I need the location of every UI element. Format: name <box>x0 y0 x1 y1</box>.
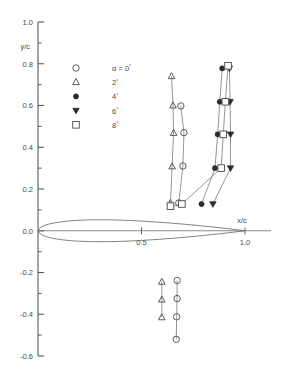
x-axis-title: x/c <box>237 216 247 225</box>
legend-symbol-open-triangle-up <box>73 79 80 85</box>
series-undefined <box>173 103 187 343</box>
legend-item-4: 4° <box>73 92 118 102</box>
legend-item-8: 8° <box>73 120 119 130</box>
data-point <box>199 201 204 206</box>
legend-label: 4° <box>112 92 118 102</box>
legend-label: 6° <box>112 106 118 116</box>
x-axis-tick-label: 1.0 <box>240 238 250 247</box>
legend: α = 0°2°4°6°8° <box>73 63 131 129</box>
legend-label: 8° <box>112 120 118 130</box>
y-axis-tick-label: 0.6 <box>23 101 33 110</box>
data-point <box>220 131 227 138</box>
y-axis-tick-label: 1.0 <box>23 18 33 27</box>
data-point <box>179 201 186 208</box>
y-axis-tick-label: 0.0 <box>23 227 33 236</box>
legend-symbol-open-circle <box>73 65 79 71</box>
data-point <box>225 63 232 70</box>
legend-item-0: α = 0° <box>73 63 131 73</box>
series-undefined <box>158 73 176 320</box>
data-series-group <box>158 63 233 343</box>
axis-titles: y/cx/c <box>20 42 247 225</box>
legend-label: α = 0° <box>112 63 131 73</box>
series-connector <box>170 76 173 203</box>
wake-survey-figure: 1.00.80.60.40.20.0-0.2-0.4-0.60.51.0 α =… <box>0 0 281 385</box>
y-axis-tick-label: 0.4 <box>23 143 33 152</box>
series-connector <box>176 280 177 339</box>
y-axis-tick-label: -0.6 <box>20 352 33 361</box>
y-axis-tick-label: -0.4 <box>20 310 33 319</box>
data-point <box>167 203 174 210</box>
data-point <box>210 202 217 208</box>
legend-item-6: 6° <box>73 106 119 116</box>
y-axis-tick-label: -0.2 <box>20 268 33 277</box>
legend-item-2: 2° <box>73 78 119 88</box>
series-connector <box>179 106 184 203</box>
legend-symbol-filled-triangle-down <box>73 108 80 114</box>
legend-label: 2° <box>112 78 118 88</box>
y-axis-tick-label: 0.8 <box>23 60 33 69</box>
axes: 1.00.80.60.40.20.0-0.2-0.4-0.60.51.0 <box>20 18 271 361</box>
data-point <box>217 99 222 104</box>
data-point <box>212 166 217 171</box>
data-point <box>220 66 225 71</box>
y-axis-title: y/c <box>20 42 30 51</box>
x-axis-tick-label: 0.5 <box>136 238 146 247</box>
data-point <box>218 165 225 172</box>
legend-symbol-filled-circle <box>73 94 78 99</box>
data-point <box>227 166 234 172</box>
data-point <box>215 132 220 137</box>
data-point <box>222 98 229 105</box>
series-undefined <box>167 63 231 210</box>
chart-canvas: 1.00.80.60.40.20.0-0.2-0.4-0.60.51.0 α =… <box>0 0 281 385</box>
y-axis-tick-label: 0.2 <box>23 185 33 194</box>
legend-symbol-open-square <box>73 122 80 129</box>
data-point <box>227 132 234 138</box>
